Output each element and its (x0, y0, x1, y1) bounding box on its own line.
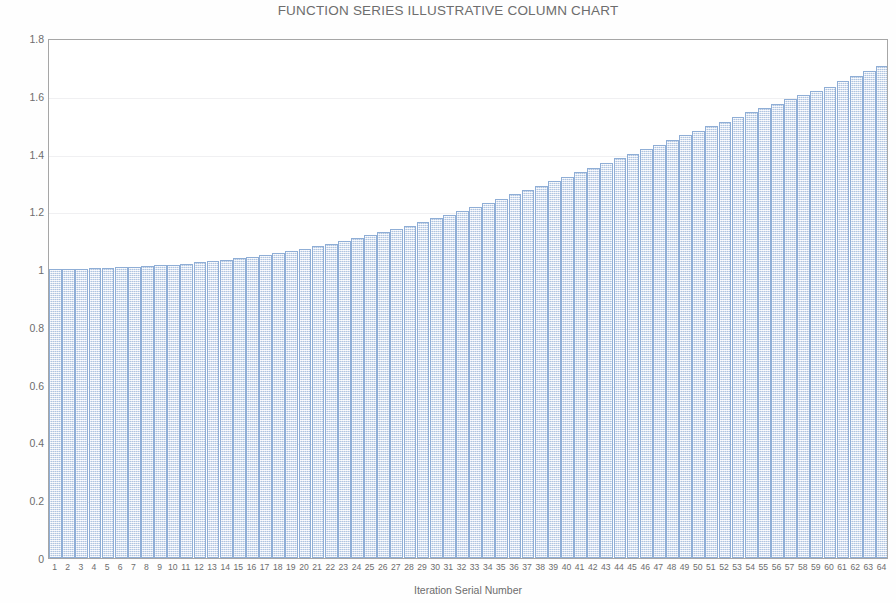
bar[interactable] (600, 163, 613, 558)
bar[interactable] (89, 268, 102, 558)
x-tick-label: 58 (796, 561, 809, 573)
y-axis-ticks: 1.81.61.41.210.80.60.40.20 (0, 39, 44, 559)
bar[interactable] (194, 262, 207, 558)
bar[interactable] (102, 268, 115, 558)
y-tick-label: 1.8 (4, 34, 44, 45)
bar[interactable] (495, 199, 508, 558)
y-tick-label: 0 (4, 554, 44, 565)
x-tick-label: 4 (87, 561, 100, 573)
x-tick-label: 57 (783, 561, 796, 573)
y-tick-label: 1 (4, 265, 44, 276)
bar[interactable] (207, 261, 220, 558)
bar[interactable] (653, 145, 666, 558)
bar[interactable] (561, 177, 574, 558)
bar[interactable] (548, 181, 561, 558)
x-tick-label: 32 (455, 561, 468, 573)
bar[interactable] (390, 229, 403, 558)
bar[interactable] (666, 140, 679, 558)
bar[interactable] (430, 218, 443, 558)
bar[interactable] (745, 112, 758, 558)
bar[interactable] (810, 91, 823, 558)
x-tick-label: 9 (153, 561, 166, 573)
bar[interactable] (732, 117, 745, 558)
bar[interactable] (535, 186, 548, 558)
x-axis-ticks: 1234567891011121314151617181920212223242… (48, 561, 888, 577)
y-tick-label: 0.8 (4, 323, 44, 334)
bar[interactable] (758, 108, 771, 558)
x-tick-label: 51 (704, 561, 717, 573)
x-axis-title: Iteration Serial Number (48, 584, 888, 596)
bar[interactable] (640, 149, 653, 558)
x-tick-label: 50 (691, 561, 704, 573)
bar[interactable] (797, 95, 810, 558)
bar[interactable] (141, 266, 154, 558)
bar[interactable] (456, 211, 469, 558)
bar[interactable] (312, 246, 325, 558)
bar[interactable] (128, 267, 141, 558)
x-tick-label: 28 (402, 561, 415, 573)
bar[interactable] (784, 99, 797, 558)
bar[interactable] (325, 244, 338, 558)
x-tick-label: 33 (468, 561, 481, 573)
bar[interactable] (574, 172, 587, 558)
bar[interactable] (351, 238, 364, 558)
bar[interactable] (614, 158, 627, 558)
bar[interactable] (154, 265, 167, 558)
bar[interactable] (771, 104, 784, 558)
bar[interactable] (863, 71, 876, 558)
x-tick-label: 43 (599, 561, 612, 573)
x-tick-label: 6 (114, 561, 127, 573)
y-tick-label: 1.2 (4, 207, 44, 218)
bar[interactable] (443, 215, 456, 558)
bar[interactable] (587, 168, 600, 558)
x-tick-label: 30 (429, 561, 442, 573)
bar[interactable] (259, 255, 272, 558)
bar[interactable] (167, 265, 180, 559)
y-tick-label: 0.2 (4, 496, 44, 507)
x-tick-label: 55 (757, 561, 770, 573)
x-tick-label: 46 (639, 561, 652, 573)
bar[interactable] (299, 249, 312, 558)
bar[interactable] (719, 122, 732, 559)
bar[interactable] (705, 126, 718, 558)
x-tick-label: 22 (324, 561, 337, 573)
bar[interactable] (364, 235, 377, 558)
bar[interactable] (692, 131, 705, 558)
bar[interactable] (482, 203, 495, 558)
bar[interactable] (220, 260, 233, 558)
x-tick-label: 56 (770, 561, 783, 573)
bar[interactable] (509, 194, 522, 558)
bar[interactable] (272, 253, 285, 558)
bar[interactable] (180, 264, 193, 558)
x-tick-label: 16 (245, 561, 258, 573)
y-tick-label: 1.4 (4, 150, 44, 161)
bar[interactable] (679, 135, 692, 558)
bar[interactable] (627, 154, 640, 558)
bar[interactable] (285, 251, 298, 558)
x-tick-label: 13 (206, 561, 219, 573)
bar-series (49, 40, 887, 558)
bar[interactable] (377, 232, 390, 558)
bar[interactable] (233, 258, 246, 558)
bar[interactable] (417, 222, 430, 558)
bar[interactable] (246, 257, 259, 558)
bar[interactable] (62, 269, 75, 558)
bar[interactable] (338, 241, 351, 558)
x-tick-label: 40 (560, 561, 573, 573)
x-tick-label: 39 (547, 561, 560, 573)
bar[interactable] (876, 66, 888, 558)
bar[interactable] (75, 269, 88, 558)
bar[interactable] (850, 76, 863, 558)
bar[interactable] (469, 207, 482, 558)
bar[interactable] (49, 269, 62, 558)
bar[interactable] (837, 81, 850, 558)
x-tick-label: 25 (363, 561, 376, 573)
bar[interactable] (522, 190, 535, 558)
x-tick-label: 45 (626, 561, 639, 573)
x-tick-label: 38 (534, 561, 547, 573)
x-tick-label: 23 (337, 561, 350, 573)
bar[interactable] (404, 226, 417, 559)
x-tick-label: 54 (744, 561, 757, 573)
bar[interactable] (115, 267, 128, 558)
bar[interactable] (824, 87, 837, 558)
